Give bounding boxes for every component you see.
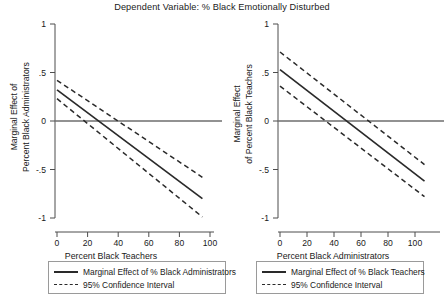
x-axis-title-left: Percent Black Teachers [0,251,222,261]
legend-item-confidence-interval: 95% Confidence Interval [261,278,418,291]
x-tick-label: 60 [137,238,161,248]
y-tick-label: -1 [22,213,46,223]
x-tick-label: 80 [167,238,191,248]
dashed-line-key-icon [53,280,79,290]
dashed-line-key-icon [261,280,287,290]
x-axis-title-right: Percent Black Administrators [222,251,444,261]
legend-item-marginal-effect: Marginal Effect of % Black Teachers [261,265,418,278]
plot-area-left [0,14,222,246]
solid-line-key-icon [53,267,79,277]
figure-title: Dependent Variable: % Black Emotionally … [0,2,444,12]
figure: Dependent Variable: % Black Emotionally … [0,0,444,302]
x-tick-label: 60 [349,238,373,248]
x-tick-label: 0 [45,238,69,248]
x-tick-label: 0 [268,238,292,248]
legend-left: Marginal Effect of % Black Administrator… [48,261,226,294]
legend-label: 95% Confidence Interval [83,280,174,290]
x-tick-label: 40 [106,238,130,248]
legend-right: Marginal Effect of % Black Teachers 95% … [256,261,424,294]
legend-item-marginal-effect: Marginal Effect of % Black Administrator… [53,265,220,278]
y-axis-title-line-2: Percent Black Administrators [21,22,33,212]
y-axis-title-line-1: Marginal Effect [232,24,244,204]
x-tick-label: 100 [198,238,222,248]
x-tick-label: 80 [376,238,400,248]
y-axis-title-right-2: of Percent Black Teachers [244,24,256,204]
chart-panel-right: 1 .5 0 -.5 -1 0 20 40 60 80 100 Marginal… [222,14,444,246]
legend-item-confidence-interval: 95% Confidence Interval [53,278,220,291]
y-axis-title-line-2: of Percent Black Teachers [244,24,256,204]
solid-line-key-icon [261,267,287,277]
legend-label: Marginal Effect of % Black Teachers [291,267,425,277]
x-tick-label: 100 [403,238,427,248]
x-tick-label: 40 [322,238,346,248]
chart-panel-left: 1 .5 0 -.5 -1 0 20 40 60 80 100 Marginal… [0,14,222,246]
y-axis-title-right: Marginal Effect [232,24,244,204]
y-axis-title-left-2: Percent Black Administrators [21,22,33,212]
x-tick-label: 20 [76,238,100,248]
legend-label: 95% Confidence Interval [291,280,382,290]
y-tick-label: -1 [245,213,269,223]
y-axis-title-left: Marginal Effect of [9,22,21,212]
legend-label: Marginal Effect of % Black Administrator… [83,267,236,277]
x-tick-label: 20 [295,238,319,248]
y-axis-title-line-1: Marginal Effect of [9,22,21,212]
